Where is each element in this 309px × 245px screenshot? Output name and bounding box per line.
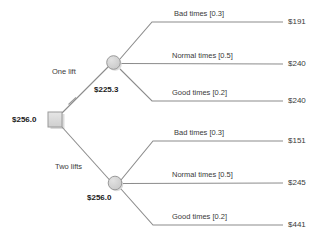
decision-label-two-lifts: Two lifts <box>55 163 82 171</box>
tree-graphics <box>0 0 309 245</box>
branch-upper-normal-times <box>122 64 284 65</box>
outcome-label-lower-good-times: Good times [0.2] <box>172 213 227 221</box>
upper-chance-node <box>107 56 121 70</box>
branch-lower-normal-times <box>123 183 283 184</box>
payoff-upper-normal-times: $240 <box>288 60 306 68</box>
payoff-upper-bad-times: $191 <box>288 18 306 26</box>
root-expected-value: $256.0 <box>12 116 36 124</box>
outcome-label-upper-good-times: Good times [0.2] <box>172 89 227 97</box>
outcome-label-upper-bad-times: Bad times [0.3] <box>174 10 224 18</box>
payoff-lower-good-times: $441 <box>288 221 306 229</box>
payoff-lower-normal-times: $245 <box>288 179 306 187</box>
outcome-label-upper-normal-times: Normal times [0.5] <box>172 52 233 60</box>
outcome-label-lower-bad-times: Bad times [0.3] <box>174 129 224 137</box>
branch-two-lifts <box>62 127 111 181</box>
decision-label-one-lift: One lift <box>52 68 76 76</box>
lower-chance-node <box>108 176 122 190</box>
payoff-lower-bad-times: $151 <box>288 137 306 145</box>
decision-tree-diagram: $256.0 One lift Two lifts $225.3 $256.0 … <box>0 0 309 245</box>
outcome-label-lower-normal-times: Normal times [0.5] <box>172 171 233 179</box>
upper-node-expected-value: $225.3 <box>94 86 118 94</box>
lower-node-expected-value: $256.0 <box>87 194 111 202</box>
root-decision-node <box>48 112 62 127</box>
payoff-upper-good-times: $240 <box>288 97 306 105</box>
